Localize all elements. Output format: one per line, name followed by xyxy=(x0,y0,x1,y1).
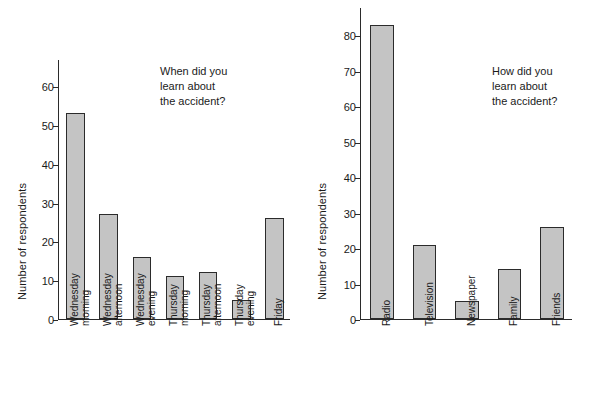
x-axis-label: Radio xyxy=(381,300,392,326)
y-tick-label: 40 xyxy=(42,159,54,170)
y-axis-title-right: Number of respondents xyxy=(316,183,328,300)
x-axis-label-line: Television xyxy=(424,282,435,326)
x-axis-label: Newspaper xyxy=(466,275,477,326)
x-axis-label: Thursdaymorning xyxy=(168,284,190,326)
bar xyxy=(370,25,394,319)
y-tick-label: 30 xyxy=(42,198,54,209)
x-axis-label-line: afternoon xyxy=(113,273,124,326)
x-axis-label: Friday xyxy=(273,298,284,326)
x-axis-label-line: Thursday xyxy=(168,284,179,326)
y-tick-label: 50 xyxy=(42,120,54,131)
x-axis-label-line: evening xyxy=(146,273,157,326)
x-axis-label-line: Wednesday xyxy=(102,273,113,326)
chart-panel-right: Number of respondents 01020304050607080 … xyxy=(300,0,596,396)
x-axis-label-line: Friday xyxy=(273,298,284,326)
x-axis-label: Thursdayevening xyxy=(234,284,256,326)
y-axis-title-left: Number of respondents xyxy=(16,183,28,300)
x-axis-label-line: Thursday xyxy=(234,284,245,326)
y-tick-label: 0 xyxy=(350,315,356,326)
y-tick-label: 20 xyxy=(42,237,54,248)
x-axis-label: Friends xyxy=(551,293,562,326)
figure-root: Number of respondents 0102030405060 Wedn… xyxy=(0,0,596,396)
y-tick-label: 10 xyxy=(344,279,356,290)
y-tick-label: 40 xyxy=(344,173,356,184)
y-tick-label: 30 xyxy=(344,208,356,219)
x-axis-label-line: Family xyxy=(508,297,519,326)
x-axis-label-line: Wednesday xyxy=(135,273,146,326)
y-tick-label: 10 xyxy=(42,276,54,287)
bar-series-right xyxy=(361,8,572,319)
x-axis-label-line: morning xyxy=(179,284,190,326)
y-tick-label: 0 xyxy=(48,315,54,326)
plot-area-right: 01020304050607080 xyxy=(360,8,572,320)
y-tick-label: 20 xyxy=(344,244,356,255)
x-axis-label-line: Friends xyxy=(551,293,562,326)
x-axis-label-line: evening xyxy=(245,284,256,326)
y-tick-label: 60 xyxy=(344,102,356,113)
y-tick-label: 50 xyxy=(344,137,356,148)
chart-panel-left: Number of respondents 0102030405060 Wedn… xyxy=(0,0,300,396)
x-axis-label: Wednesdayevening xyxy=(135,273,157,326)
x-axis-label-line: afternoon xyxy=(212,284,223,326)
x-axis-label-line: Thursday xyxy=(201,284,212,326)
x-axis-label-line: Radio xyxy=(381,300,392,326)
x-axis-label-line: morning xyxy=(80,273,91,326)
x-axis-label-line: Wednesday xyxy=(69,273,80,326)
x-axis-label: Family xyxy=(508,297,519,326)
x-axis-label: Wednesdayafternoon xyxy=(102,273,124,326)
x-axis-label: Thursdayafternoon xyxy=(201,284,223,326)
x-axis-label: Wednesdaymorning xyxy=(69,273,91,326)
x-axis-label: Television xyxy=(424,282,435,326)
annotation-left: When did you learn about the accident? xyxy=(160,64,280,109)
y-tick-label: 60 xyxy=(42,82,54,93)
y-tick-label: 80 xyxy=(344,31,356,42)
x-axis-label-line: Newspaper xyxy=(466,275,477,326)
annotation-right: How did you learn about the accident? xyxy=(492,64,596,109)
y-tick-label: 70 xyxy=(344,66,356,77)
